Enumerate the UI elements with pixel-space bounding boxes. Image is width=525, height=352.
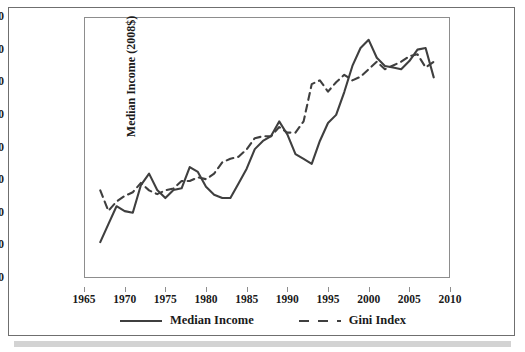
y-tick-label-5: 48000 [0, 109, 4, 120]
x-tick-label-9: 2010 [427, 293, 473, 305]
series-lines [84, 17, 450, 278]
x-tick-label-8: 2005 [386, 293, 432, 305]
chart-legend: Median Income Gini Index [9, 313, 516, 328]
legend-item-gini-index: Gini Index [298, 313, 406, 328]
y-tick-label-4: 46000 [0, 142, 4, 153]
footer-bar [14, 341, 511, 347]
x-tick-mark-5 [287, 287, 288, 292]
series-line-1 [100, 40, 433, 242]
x-tick-label-6: 1995 [305, 293, 351, 305]
legend-label-gini-index: Gini Index [349, 313, 406, 328]
x-tick-label-4: 1985 [224, 293, 270, 305]
x-tick-label-3: 1980 [183, 293, 229, 305]
x-tick-label-0: 1965 [61, 293, 107, 305]
x-tick-mark-8 [409, 287, 410, 292]
x-tick-mark-0 [84, 287, 85, 292]
x-tick-mark-7 [369, 287, 370, 292]
y-axis-title: Median Income (2008$) [124, 0, 139, 172]
y-tick-label-8: 54000 [0, 11, 4, 22]
legend-swatch-dashed [298, 316, 342, 326]
legend-label-median-income: Median Income [170, 313, 254, 328]
x-tick-mark-4 [247, 287, 248, 292]
x-tick-mark-2 [165, 287, 166, 292]
y-tick-label-1: 40000 [0, 239, 4, 250]
x-tick-mark-9 [450, 287, 451, 292]
y-tick-label-7: 52000 [0, 44, 4, 55]
x-tick-label-5: 1990 [264, 293, 310, 305]
plot-area: Median Income (2008$) Gini Index 3800040… [84, 17, 450, 278]
y-tick-label-0: 38000 [0, 272, 4, 283]
x-tick-label-1: 1970 [102, 293, 148, 305]
y-tick-label-6: 50000 [0, 76, 4, 87]
x-tick-mark-6 [328, 287, 329, 292]
y-tick-label-3: 44000 [0, 174, 4, 185]
x-tick-label-2: 1975 [142, 293, 188, 305]
y-tick-label-2: 42000 [0, 207, 4, 218]
x-tick-label-7: 2000 [346, 293, 392, 305]
x-tick-mark-1 [125, 287, 126, 292]
legend-swatch-solid [119, 316, 163, 326]
series-line-2 [100, 54, 433, 211]
legend-item-median-income: Median Income [119, 313, 254, 328]
footer-strip [0, 339, 525, 352]
chart-figure: Median Income (2008$) Gini Index 3800040… [8, 7, 515, 336]
x-tick-mark-3 [206, 287, 207, 292]
